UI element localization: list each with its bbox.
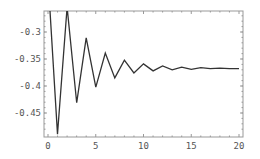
x-tick-label: 20: [234, 141, 245, 151]
x-tick-label: 0: [45, 141, 50, 151]
plot-area: [48, 0, 239, 134]
y-tick-label: -0.4: [19, 81, 41, 91]
x-tick-label: 5: [93, 141, 98, 151]
x-tick-label: 15: [186, 141, 197, 151]
y-tick-label: -0.3: [19, 27, 41, 37]
y-tick-label: -0.45: [14, 108, 41, 118]
line-chart: -0.3-0.35-0.4-0.45 05101520: [0, 0, 260, 159]
y-axis: -0.3-0.35-0.4-0.45: [14, 16, 243, 129]
x-tick-label: 10: [138, 141, 149, 151]
data-series-line: [48, 0, 239, 134]
y-tick-label: -0.35: [14, 54, 41, 64]
